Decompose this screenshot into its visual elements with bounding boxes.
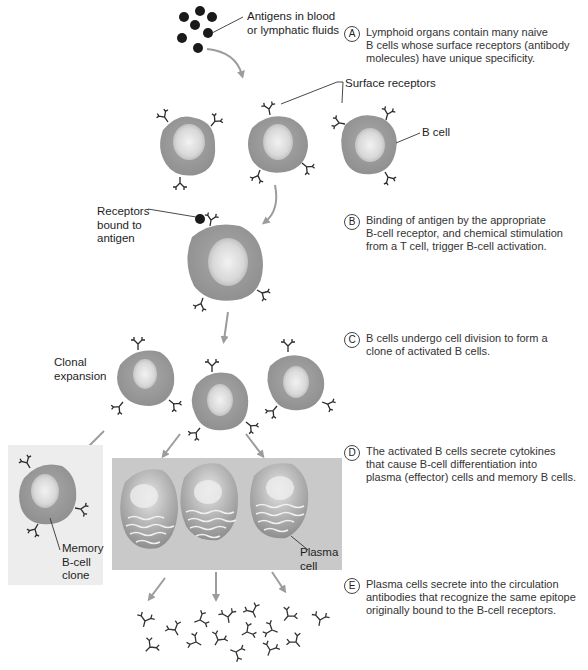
free-antibodies	[135, 601, 330, 663]
b-cell-leader	[396, 133, 420, 143]
b-cell-label: B cell	[422, 126, 450, 140]
plasma-cell-2	[180, 463, 238, 540]
step-text-a: Lymphoid organs contain many naive B cel…	[366, 26, 586, 65]
arrow-to-clone	[224, 312, 228, 340]
arrow-secretion-3	[272, 572, 284, 590]
arrow-to-plasma-1	[164, 434, 180, 455]
plasma-cell-label: Plasma cell	[300, 546, 338, 573]
plasma-cell-1	[120, 469, 178, 549]
antigen-cluster	[177, 6, 243, 53]
naive-b-cell-1	[155, 107, 225, 190]
arrow-to-activated-cell	[265, 185, 276, 222]
naive-b-cell-3	[331, 106, 398, 187]
clonal-expansion-label: Clonal expansion	[54, 356, 106, 383]
step-badge-e: E	[344, 578, 360, 594]
step-text-e: Plasma cells secrete into the circulatio…	[366, 578, 586, 617]
clone-cell-3	[263, 339, 336, 420]
receptors-bound-label: Receptors bound to antigen	[97, 205, 149, 246]
step-badge-c: C	[344, 332, 360, 348]
memory-clone-label: Memory B-cell clone	[62, 542, 104, 583]
step-text-b: Binding of antigen by the appropriate B-…	[366, 214, 586, 253]
naive-b-cell-2	[248, 101, 316, 185]
antigens-label: Antigens in blood or lymphatic fluids	[247, 10, 339, 37]
activated-b-cell	[148, 209, 272, 313]
step-text-c: B cells undergo cell division to form a …	[366, 332, 586, 358]
arrow-antigen-to-cells	[207, 49, 242, 75]
step-badge-a: A	[344, 26, 360, 42]
surface-receptors-label: Surface receptors	[345, 77, 436, 91]
step-badge-d: D	[344, 445, 360, 461]
surface-receptors-leader	[281, 82, 343, 104]
step-text-d: The activated B cells secrete cytokines …	[366, 445, 586, 484]
step-badge-b: B	[344, 214, 360, 230]
clone-cell-1	[109, 337, 183, 416]
clone-cell-2	[186, 359, 260, 442]
arrow-to-plasma-3	[246, 434, 262, 455]
b-cell-activation-diagram: Antigens in blood or lymphatic fluids Su…	[0, 0, 588, 670]
arrow-secretion-1	[150, 578, 165, 598]
